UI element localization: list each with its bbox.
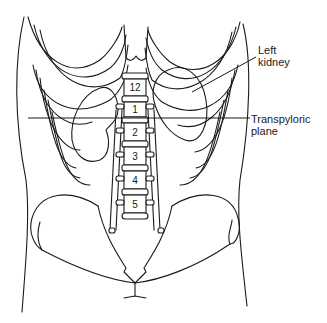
vertebra-l1-label: 1 <box>132 104 138 115</box>
psoas-left <box>110 110 116 230</box>
body-outline-right <box>239 24 249 306</box>
transpyloric-label-line2: plane <box>251 125 311 137</box>
vertebra-l4-label: 4 <box>132 175 138 186</box>
psoas-right-end <box>158 228 164 233</box>
psoas-left-end <box>109 228 115 233</box>
transpyloric-label-line1: Transpyloric <box>251 113 311 125</box>
vertebra-l2-label: 2 <box>132 127 138 138</box>
psoas-right <box>154 110 160 230</box>
body-outline-left <box>17 17 28 312</box>
vertebra-t12-label: 12 <box>129 82 141 93</box>
left-kidney-label: Left kidney <box>258 44 290 68</box>
vertebra-l5-label: 5 <box>132 199 138 210</box>
spine-top <box>124 25 148 60</box>
left-kidney-label-line1: Left <box>258 44 290 56</box>
vertebra-l3-label: 3 <box>132 151 138 162</box>
vertebral-column: 12 1 2 3 4 5 <box>116 73 154 219</box>
right-ribs <box>145 22 240 185</box>
left-kidney-leader-line <box>192 57 256 92</box>
transpyloric-plane-label: Transpyloric plane <box>251 113 311 137</box>
left-kidney-label-line2: kidney <box>258 56 290 68</box>
